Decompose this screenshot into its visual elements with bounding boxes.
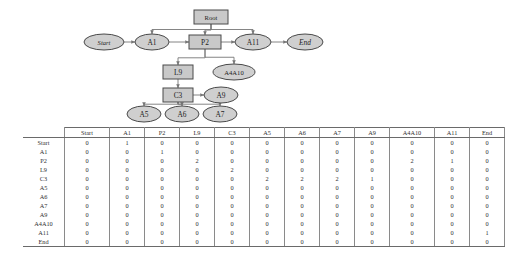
node-a7[interactable]: A7: [203, 106, 237, 122]
matrix-cell-A9-A6: 0: [285, 210, 320, 219]
node-label-a9: A9: [216, 91, 225, 100]
edge-root-to-a11: [211, 24, 253, 34]
matrix-row: A1001000000000: [23, 147, 505, 156]
matrix-cell-End-L9: 0: [180, 237, 215, 247]
matrix-cell-A7-A9: 0: [355, 201, 390, 210]
matrix-cell-A5-A6: 0: [285, 183, 320, 192]
matrix-col-header-A9: A9: [355, 128, 390, 138]
matrix-col-header-L9: L9: [180, 128, 215, 138]
adjacency-matrix-container: StartA1P2L9C3A5A6A7A9A4A10A11End Start01…: [23, 127, 390, 247]
matrix-cell-A11-A7: 0: [320, 228, 355, 237]
matrix-cell-A6-L9: 0: [180, 192, 215, 201]
matrix-cell-P2-C3: 0: [215, 156, 250, 165]
node-a4a10[interactable]: A4A10: [213, 64, 255, 80]
node-end[interactable]: End: [287, 34, 323, 50]
matrix-cell-A7-A5: 0: [250, 201, 285, 210]
matrix-row-header-A11: A11: [23, 228, 65, 237]
matrix-cell-A4A10-End: 0: [470, 219, 505, 228]
matrix-cell-A9-A9: 0: [355, 210, 390, 219]
matrix-row: L9000020000000: [23, 165, 505, 174]
matrix-cell-A7-A4A10: 0: [390, 201, 435, 210]
matrix-cell-A6-A7: 0: [320, 192, 355, 201]
matrix-cell-A9-L9: 0: [180, 210, 215, 219]
node-a1[interactable]: A1: [135, 34, 169, 50]
matrix-cell-A4A10-A5: 0: [250, 219, 285, 228]
matrix-cell-A5-A5: 0: [250, 183, 285, 192]
matrix-cell-P2-L9: 2: [180, 156, 215, 165]
matrix-cell-A9-End: 0: [470, 210, 505, 219]
node-label-start: Start: [98, 39, 111, 46]
matrix-cell-A6-End: 0: [470, 192, 505, 201]
matrix-col-header-C3: C3: [215, 128, 250, 138]
matrix-cell-A6-A9: 0: [355, 192, 390, 201]
matrix-cell-L9-P2: 0: [145, 165, 180, 174]
matrix-corner-cell: [23, 128, 65, 138]
matrix-cell-A1-C3: 0: [215, 147, 250, 156]
matrix-cell-A11-A4A10: 0: [390, 228, 435, 237]
edge-p2-to-a4a10: [205, 49, 234, 64]
matrix-cell-A7-P2: 0: [145, 201, 180, 210]
node-a11[interactable]: A11: [235, 34, 271, 50]
matrix-cell-A9-P2: 0: [145, 210, 180, 219]
matrix-header: StartA1P2L9C3A5A6A7A9A4A10A11End: [23, 128, 505, 138]
matrix-cell-End-Start: 0: [65, 237, 110, 247]
diagram-nodes: RootStartA1P2A11EndL9A4A10C3A9A5A6A7: [84, 10, 323, 122]
matrix-cell-End-A7: 0: [320, 237, 355, 247]
matrix-cell-A9-A11: 0: [435, 210, 470, 219]
matrix-row-header-A7: A7: [23, 201, 65, 210]
matrix-cell-C3-A9: 1: [355, 174, 390, 183]
matrix-cell-A11-Start: 0: [65, 228, 110, 237]
matrix-body: Start010000000000A1001000000000P20002000…: [23, 138, 505, 247]
matrix-cell-A11-A9: 0: [355, 228, 390, 237]
matrix-cell-A5-A9: 0: [355, 183, 390, 192]
node-a9[interactable]: A9: [204, 87, 238, 103]
matrix-cell-End-End: 0: [470, 237, 505, 247]
node-root[interactable]: Root: [194, 10, 228, 24]
matrix-cell-A11-A11: 0: [435, 228, 470, 237]
matrix-cell-A11-End: 1: [470, 228, 505, 237]
matrix-cell-Start-A9: 0: [355, 138, 390, 148]
matrix-cell-A9-A4A10: 0: [390, 210, 435, 219]
matrix-cell-A11-A1: 0: [110, 228, 145, 237]
matrix-cell-Start-A6: 0: [285, 138, 320, 148]
matrix-cell-A1-P2: 1: [145, 147, 180, 156]
matrix-cell-A4A10-C3: 0: [215, 219, 250, 228]
node-p2[interactable]: P2: [189, 35, 221, 49]
node-start[interactable]: Start: [84, 34, 124, 50]
matrix-cell-A6-Start: 0: [65, 192, 110, 201]
node-label-a1: A1: [147, 38, 156, 47]
node-a6[interactable]: A6: [165, 106, 199, 122]
matrix-cell-L9-A4A10: 0: [390, 165, 435, 174]
matrix-cell-A4A10-P2: 0: [145, 219, 180, 228]
matrix-cell-A11-L9: 0: [180, 228, 215, 237]
matrix-cell-L9-A7: 0: [320, 165, 355, 174]
matrix-cell-A1-A11: 0: [435, 147, 470, 156]
node-label-a6: A6: [177, 110, 186, 119]
matrix-cell-Start-A11: 0: [435, 138, 470, 148]
matrix-cell-P2-Start: 0: [65, 156, 110, 165]
matrix-cell-A6-A4A10: 0: [390, 192, 435, 201]
matrix-cell-A1-A6: 0: [285, 147, 320, 156]
node-l9[interactable]: L9: [163, 65, 193, 79]
matrix-cell-P2-A6: 0: [285, 156, 320, 165]
matrix-cell-P2-A9: 0: [355, 156, 390, 165]
matrix-cell-End-C3: 0: [215, 237, 250, 247]
matrix-row: End000000000000: [23, 237, 505, 247]
node-c3[interactable]: C3: [163, 88, 193, 102]
node-a5[interactable]: A5: [127, 106, 161, 122]
edge-p2-to-l9: [178, 49, 205, 65]
node-label-a5: A5: [139, 110, 148, 119]
matrix-row: A11000000000001: [23, 228, 505, 237]
matrix-row-header-A4A10: A4A10: [23, 219, 65, 228]
matrix-cell-End-A5: 0: [250, 237, 285, 247]
matrix-cell-A6-A1: 0: [110, 192, 145, 201]
matrix-row-header-A9: A9: [23, 210, 65, 219]
matrix-cell-P2-A7: 0: [320, 156, 355, 165]
adjacency-matrix-table: StartA1P2L9C3A5A6A7A9A4A10A11End Start01…: [23, 127, 505, 247]
matrix-cell-Start-End: 0: [470, 138, 505, 148]
node-label-a4a10: A4A10: [224, 69, 244, 76]
matrix-row-header-A5: A5: [23, 183, 65, 192]
matrix-cell-A7-A1: 0: [110, 201, 145, 210]
node-label-p2: P2: [201, 38, 209, 47]
node-label-l9: L9: [174, 68, 183, 77]
